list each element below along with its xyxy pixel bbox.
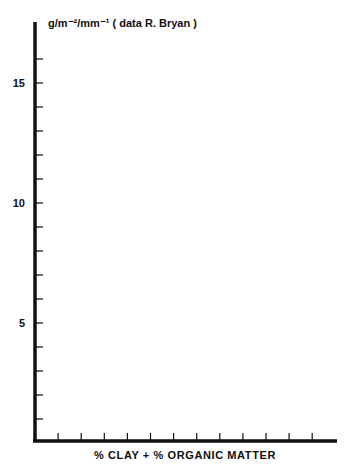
x-axis-label: % CLAY + % ORGANIC MATTER [94, 449, 276, 461]
y-tick-label: 15 [13, 77, 25, 89]
y-axis-title: g/m⁻²/mm⁻¹ ( data R. Bryan ) [48, 17, 197, 29]
y-tick-label: 10 [13, 197, 25, 209]
y-tick-label: 5 [19, 317, 25, 329]
axes: 51015 [13, 22, 337, 442]
scatter-chart: 51015 g/m⁻²/mm⁻¹ ( data R. Bryan ) % CLA… [0, 0, 350, 472]
annotation-sand-line2: Sand [0, 0, 29, 3]
